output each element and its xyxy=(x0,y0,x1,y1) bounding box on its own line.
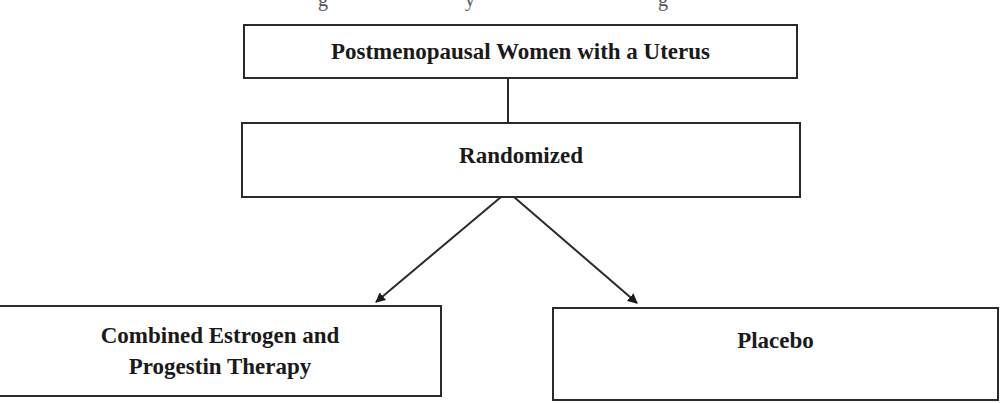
arrow-to-placebo xyxy=(514,197,637,303)
node-population: Postmenopausal Women with a Uterus xyxy=(243,24,798,79)
node-placebo: Placebo xyxy=(552,307,999,401)
node-treatment: Combined Estrogen and Progestin Therapy xyxy=(0,305,442,397)
node-treatment-label-line1: Combined Estrogen and xyxy=(101,320,340,351)
node-treatment-label-line2: Progestin Therapy xyxy=(129,351,312,382)
arrow-to-treatment xyxy=(376,197,501,302)
node-randomized-label: Randomized xyxy=(459,140,583,171)
node-placebo-label: Placebo xyxy=(737,325,814,356)
node-population-label: Postmenopausal Women with a Uterus xyxy=(331,36,710,67)
node-randomized: Randomized xyxy=(241,122,801,198)
